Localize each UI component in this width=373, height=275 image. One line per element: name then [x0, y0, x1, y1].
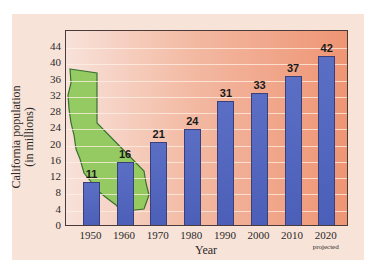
- y-tick-label: 8: [37, 186, 61, 198]
- gridline: [66, 178, 347, 179]
- bar-1990: [217, 101, 234, 226]
- y-tick-label: 44: [37, 40, 61, 52]
- x-tick-note: projected: [306, 243, 346, 251]
- gridline: [66, 81, 347, 82]
- bar-value-label: 24: [177, 115, 207, 127]
- y-tick-label: 0: [37, 219, 61, 231]
- y-tick-label: 4: [37, 203, 61, 215]
- x-tick-label: 1970: [141, 229, 175, 241]
- gridline: [66, 97, 347, 98]
- x-tick-label: 2000: [242, 229, 276, 241]
- bar-value-label: 31: [211, 87, 241, 99]
- y-tick-label: 28: [37, 105, 61, 117]
- gridline: [66, 113, 347, 114]
- bar-2010: [285, 76, 302, 226]
- y-tick-label: 20: [37, 138, 61, 150]
- y-tick-label: 40: [37, 56, 61, 68]
- x-axis-label: Year: [195, 243, 217, 258]
- y-tick-label: 36: [37, 73, 61, 85]
- bar-2020: [318, 56, 335, 226]
- bar-value-label: 33: [245, 79, 275, 91]
- bar-2000: [251, 93, 268, 226]
- x-tick-label: 1960: [107, 229, 141, 241]
- y-tick-label: 32: [37, 89, 61, 101]
- bar-1960: [117, 162, 134, 226]
- gridline: [66, 194, 347, 195]
- gridline: [66, 162, 347, 163]
- gridline: [66, 129, 347, 130]
- plot-area: 1116212431333742: [65, 30, 348, 226]
- x-tick-label: 1990: [208, 229, 242, 241]
- y-tick-label: 12: [37, 170, 61, 182]
- bar-1980: [184, 129, 201, 226]
- bar-value-label: 16: [110, 148, 140, 160]
- bar-value-label: 21: [144, 128, 174, 140]
- x-tick-label: 2010: [275, 229, 309, 241]
- gridline: [66, 48, 347, 49]
- bar-1970: [150, 142, 167, 226]
- y-tick-label: 24: [37, 121, 61, 133]
- bar-1950: [83, 182, 100, 226]
- y-axis-label-line-2: (in millions): [23, 86, 36, 189]
- bar-value-label: 11: [77, 168, 107, 180]
- y-axis-label: California population (in millions): [10, 86, 36, 189]
- bar-value-label: 37: [278, 62, 308, 74]
- x-tick-label: 1950: [74, 229, 108, 241]
- gridline: [66, 146, 347, 147]
- y-tick-label: 16: [37, 154, 61, 166]
- x-tick-label: 1980: [174, 229, 208, 241]
- gridline: [66, 211, 347, 212]
- x-tick-label: 2020: [309, 229, 343, 241]
- bar-value-label: 42: [312, 42, 342, 54]
